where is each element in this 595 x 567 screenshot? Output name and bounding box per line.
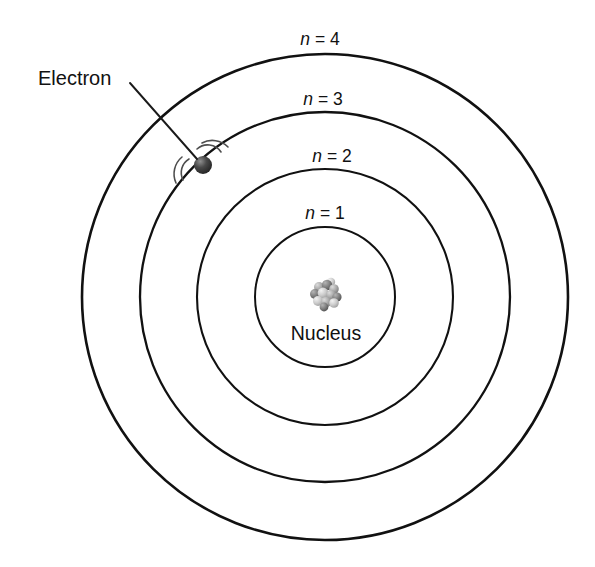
shell-label-n3-value: = 3: [318, 89, 343, 109]
shell-label-n2-value: = 2: [327, 146, 352, 166]
nucleus-label: Nucleus: [291, 322, 362, 344]
shell-label-n3-variable: n: [303, 89, 313, 109]
shell-label-n1: n= 1: [305, 203, 345, 223]
shell-labels-group: n= 4 n= 3 n= 2 n= 1: [300, 29, 352, 223]
shell-label-n2-variable: n: [312, 146, 322, 166]
shell-label-n1-value: = 1: [320, 203, 345, 223]
shell-label-n4: n= 4: [300, 29, 340, 49]
bohr-model-svg: n= 4 n= 3 n= 2 n= 1: [0, 0, 595, 567]
shell-label-n2: n= 2: [312, 146, 352, 166]
shell-label-n1-variable: n: [305, 203, 315, 223]
electron-leader-line: [130, 83, 197, 159]
nucleus-group[interactable]: [310, 278, 342, 312]
bohr-model-figure: n= 4 n= 3 n= 2 n= 1: [0, 0, 595, 567]
electron-group[interactable]: [174, 140, 228, 183]
nucleon-sphere: [320, 303, 329, 312]
electron-callout-group: Electron: [38, 67, 197, 159]
shell-label-n4-variable: n: [300, 29, 310, 49]
nucleon-sphere: [329, 298, 339, 308]
electron-label: Electron: [38, 67, 111, 89]
shell-label-n4-value: = 4: [315, 29, 340, 49]
shell-label-n3: n= 3: [303, 89, 343, 109]
